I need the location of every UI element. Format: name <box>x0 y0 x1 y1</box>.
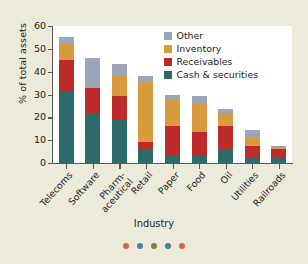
bar-segment <box>271 149 286 157</box>
y-tick-mark <box>48 26 53 27</box>
y-tick-mark <box>48 72 53 73</box>
bar-segment <box>85 88 100 114</box>
y-tick-mark <box>48 95 53 96</box>
bar-segment <box>112 96 127 120</box>
legend-item: Inventory <box>164 42 258 55</box>
bar-segment <box>165 99 180 126</box>
y-tick-label: 60 <box>22 20 46 31</box>
bar-segment <box>218 150 233 163</box>
bar-telecoms <box>59 37 74 163</box>
bar-segment <box>271 157 286 163</box>
x-tick-mark <box>146 164 147 169</box>
bar-segment <box>138 149 153 163</box>
x-tick-mark <box>93 164 94 169</box>
y-tick-mark <box>48 163 53 164</box>
bar-segment <box>218 126 233 150</box>
bar-railroads <box>271 146 286 163</box>
bar-segment <box>59 37 74 44</box>
x-tick-label: Food <box>185 170 207 193</box>
bar-segment <box>218 113 233 127</box>
decorative-dot <box>179 243 185 249</box>
bar-oil <box>218 109 233 163</box>
x-tick-mark <box>66 164 67 169</box>
x-tick-label: Paper <box>156 170 181 196</box>
bar-segment <box>85 58 100 88</box>
bar-segment <box>59 92 74 163</box>
legend-item: Receivables <box>164 55 258 68</box>
decorative-dot <box>165 243 171 249</box>
legend-swatch <box>164 58 172 66</box>
y-tick-label: 10 <box>22 134 46 145</box>
x-tick-mark <box>173 164 174 169</box>
x-tick-mark <box>252 164 253 169</box>
y-tick-label: 30 <box>22 89 46 100</box>
x-tick-mark <box>199 164 200 169</box>
y-tick-label: 50 <box>22 43 46 54</box>
bar-segment <box>138 82 153 143</box>
bar-segment <box>59 44 74 60</box>
x-tick-label: Retail <box>129 170 154 196</box>
bar-segment <box>192 104 207 133</box>
legend-label: Receivables <box>177 56 233 67</box>
y-tick-label: 40 <box>22 66 46 77</box>
chart-legend: OtherInventoryReceivablesCash & securiti… <box>164 29 258 81</box>
bar-segment <box>192 156 207 163</box>
stacked-bar-chart: % of total assets 0102030405060 Telecoms… <box>0 0 308 264</box>
bar-pharm-aceutical <box>112 64 127 163</box>
bar-segment <box>59 60 74 92</box>
x-tick-mark <box>279 164 280 169</box>
legend-label: Other <box>177 30 204 41</box>
bar-segment <box>245 138 260 146</box>
bar-software <box>85 58 100 163</box>
y-tick-label: 20 <box>22 111 46 122</box>
bar-segment <box>165 126 180 155</box>
legend-label: Inventory <box>177 43 222 54</box>
decorative-dot <box>123 243 129 249</box>
bar-segment <box>245 158 260 163</box>
x-axis-title: Industry <box>0 218 308 229</box>
y-tick-mark <box>48 117 53 118</box>
legend-item: Other <box>164 29 258 42</box>
bar-retail <box>138 76 153 163</box>
legend-label: Cash & securities <box>177 69 259 80</box>
bar-segment <box>138 142 153 149</box>
bar-utilities <box>245 130 260 163</box>
decorative-dots <box>0 243 308 249</box>
decorative-dot <box>137 243 143 249</box>
x-tick-label: Oil <box>218 170 233 186</box>
bar-paper <box>165 95 180 163</box>
bar-segment <box>245 146 260 159</box>
decorative-dot <box>151 243 157 249</box>
legend-swatch <box>164 71 172 79</box>
legend-item: Cash & securities <box>164 68 258 81</box>
bar-segment <box>112 75 127 96</box>
bar-segment <box>192 96 207 104</box>
bar-segment <box>112 64 127 75</box>
bar-segment <box>165 155 180 163</box>
bar-food <box>192 96 207 163</box>
legend-swatch <box>164 45 172 53</box>
bar-segment <box>85 114 100 163</box>
legend-swatch <box>164 32 172 40</box>
x-tick-mark <box>226 164 227 169</box>
x-tick-mark <box>119 164 120 169</box>
bar-segment <box>245 130 260 138</box>
y-tick-mark <box>48 49 53 50</box>
y-tick-mark <box>48 140 53 141</box>
bar-segment <box>112 120 127 163</box>
y-tick-label: 0 <box>22 157 46 168</box>
bar-segment <box>192 132 207 156</box>
